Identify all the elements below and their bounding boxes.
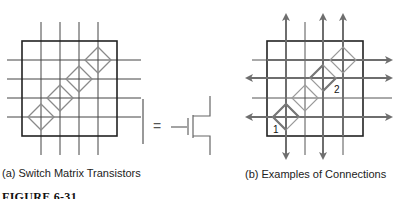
transistor-symbol-icon bbox=[171, 96, 210, 155]
panel-a-caption: (a) Switch Matrix Transistors bbox=[2, 167, 141, 179]
panel-a-horizontal-lines bbox=[7, 60, 141, 117]
connection-label-2: 2 bbox=[334, 84, 340, 95]
panel-b-switch-box bbox=[267, 41, 363, 136]
equals-sign: = bbox=[153, 118, 161, 134]
panel-a-switch-matrix bbox=[7, 22, 210, 155]
panel-b-caption: (b) Examples of Connections bbox=[245, 168, 386, 180]
panel-a-transistor-diamonds bbox=[28, 47, 111, 130]
panel-a-vertical-lines bbox=[41, 22, 98, 155]
figure-title: FIGURE 6-31 bbox=[2, 190, 77, 199]
panel-b-connections bbox=[247, 15, 392, 158]
connection-2-path bbox=[310, 65, 323, 78]
connection-label-1: 1 bbox=[273, 124, 279, 135]
panel-a-switch-box bbox=[22, 41, 117, 136]
